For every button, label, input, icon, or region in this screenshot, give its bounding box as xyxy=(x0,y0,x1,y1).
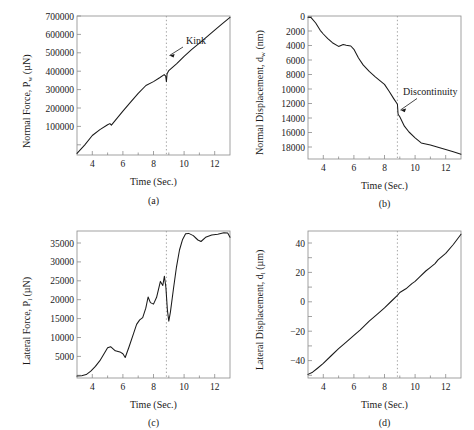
svg-text:4: 4 xyxy=(90,159,95,169)
svg-text:8: 8 xyxy=(151,382,156,392)
svg-text:0: 0 xyxy=(300,12,305,22)
svg-text:25000: 25000 xyxy=(50,276,74,286)
panel-b-xtick-labels: 4 6 8 10 12 xyxy=(321,163,451,173)
svg-text:20000: 20000 xyxy=(50,295,74,305)
svg-text:Normal Displacement, dw (nm): Normal Displacement, dw (nm) xyxy=(254,30,266,155)
panel-a-data-line xyxy=(77,17,230,153)
panel-b-yticks xyxy=(308,17,312,148)
svg-text:400000: 400000 xyxy=(46,67,75,77)
panel-d-caption: (d) xyxy=(379,417,391,429)
svg-text:Lateral Displacement, dl (µm): Lateral Displacement, dl (µm) xyxy=(254,250,266,370)
panel-a-xticks xyxy=(92,151,214,155)
panel-b-xticks xyxy=(323,155,445,159)
svg-text:100000: 100000 xyxy=(46,122,75,132)
svg-text:10000: 10000 xyxy=(281,85,305,95)
panel-a-xaxis-title: Time (Sec.) xyxy=(130,176,177,188)
svg-text:12: 12 xyxy=(210,159,220,169)
svg-text:Discontinuity: Discontinuity xyxy=(403,86,457,97)
svg-text:700000: 700000 xyxy=(46,12,75,22)
figure-root: Normal Force, Pw (µN) 700000 600000 5000… xyxy=(0,0,474,430)
svg-text:10: 10 xyxy=(179,159,189,169)
svg-text:20: 20 xyxy=(296,268,306,278)
panel-c-svg: Lateral Force, Pl (µN) 35000 30000 25000… xyxy=(0,215,237,430)
panel-c-yaxis-title: Lateral Force, Pl (µN) xyxy=(21,277,33,365)
panel-c-caption: (c) xyxy=(148,417,159,429)
svg-text:6: 6 xyxy=(352,163,357,173)
svg-text:4000: 4000 xyxy=(286,41,305,51)
svg-text:−20: −20 xyxy=(290,327,305,337)
svg-text:15000: 15000 xyxy=(50,314,74,324)
svg-text:18000: 18000 xyxy=(281,143,305,153)
svg-text:2000: 2000 xyxy=(286,27,305,37)
panel-d-xticks xyxy=(323,374,445,378)
panel-a: Normal Force, Pw (µN) 700000 600000 5000… xyxy=(0,0,237,215)
svg-text:8: 8 xyxy=(151,159,156,169)
svg-text:10: 10 xyxy=(410,163,420,173)
panel-d-data-line xyxy=(308,234,461,374)
panel-b-yaxis-title: Normal Displacement, dw (nm) xyxy=(254,30,266,155)
panel-d-xaxis-title: Time (Sec.) xyxy=(361,399,408,411)
panel-d-yticks xyxy=(308,243,312,375)
svg-text:0: 0 xyxy=(300,297,305,307)
svg-text:4: 4 xyxy=(90,382,95,392)
panel-d-xtick-labels: 4 6 8 10 12 xyxy=(321,382,451,392)
svg-text:Normal Force, Pw (µN): Normal Force, Pw (µN) xyxy=(21,55,33,148)
panel-b-xaxis-title: Time (Sec.) xyxy=(361,180,408,192)
svg-text:12: 12 xyxy=(441,163,451,173)
svg-text:Kink: Kink xyxy=(186,35,206,46)
svg-text:16000: 16000 xyxy=(281,128,305,138)
panel-c-xtick-labels: 4 6 8 10 12 xyxy=(90,382,220,392)
svg-text:12: 12 xyxy=(210,382,220,392)
svg-text:10: 10 xyxy=(179,382,189,392)
panel-a-ytick-labels: 700000 600000 500000 400000 300000 20000… xyxy=(46,12,75,132)
svg-text:4: 4 xyxy=(321,163,326,173)
panel-c-xaxis-title: Time (Sec.) xyxy=(130,399,177,411)
svg-text:6: 6 xyxy=(352,382,357,392)
panel-b-svg: Normal Displacement, dw (nm) 0 2000 4000… xyxy=(237,0,474,215)
svg-text:6000: 6000 xyxy=(286,56,305,66)
svg-text:30000: 30000 xyxy=(50,257,74,267)
panel-d-svg: Lateral Displacement, dl (µm) 40 20 0 −2… xyxy=(237,215,474,430)
panel-c-ytick-labels: 35000 30000 25000 20000 15000 10000 5000 xyxy=(50,239,74,362)
svg-text:300000: 300000 xyxy=(46,85,75,95)
panel-b-caption: (b) xyxy=(379,198,391,210)
panel-a-kink-annotation: Kink xyxy=(170,35,207,58)
panel-b-discontinuity-annotation: Discontinuity xyxy=(401,86,458,112)
panel-d: Lateral Displacement, dl (µm) 40 20 0 −2… xyxy=(237,215,474,430)
svg-text:8000: 8000 xyxy=(286,70,305,80)
svg-text:14000: 14000 xyxy=(281,114,305,124)
panel-c-yticks xyxy=(77,243,81,375)
svg-text:200000: 200000 xyxy=(46,104,75,114)
svg-text:35000: 35000 xyxy=(50,239,74,249)
svg-text:40: 40 xyxy=(296,239,306,249)
panel-a-yaxis-title: Normal Force, Pw (µN) xyxy=(21,55,33,148)
panel-a-svg: Normal Force, Pw (µN) 700000 600000 5000… xyxy=(0,0,237,215)
svg-text:4: 4 xyxy=(321,382,326,392)
panel-a-yticks xyxy=(77,16,81,145)
svg-text:6: 6 xyxy=(121,159,126,169)
svg-text:6: 6 xyxy=(121,382,126,392)
svg-text:Lateral Force, Pl (µN): Lateral Force, Pl (µN) xyxy=(21,277,33,365)
panel-d-ytick-labels: 40 20 0 −20 −40 xyxy=(290,239,305,367)
svg-text:5000: 5000 xyxy=(55,352,74,362)
panel-b-ytick-labels: 0 2000 4000 6000 8000 10000 12000 14000 … xyxy=(281,12,305,153)
panel-c: Lateral Force, Pl (µN) 35000 30000 25000… xyxy=(0,215,237,430)
svg-text:10000: 10000 xyxy=(50,333,74,343)
svg-text:12000: 12000 xyxy=(281,99,305,109)
panel-c-xticks xyxy=(92,374,214,378)
panel-a-caption: (a) xyxy=(148,195,159,207)
svg-text:10: 10 xyxy=(410,382,420,392)
panel-a-xtick-labels: 4 6 8 10 12 xyxy=(90,159,220,169)
svg-text:8: 8 xyxy=(382,382,387,392)
svg-text:−40: −40 xyxy=(290,356,305,366)
panel-c-data-line xyxy=(77,233,230,376)
svg-text:8: 8 xyxy=(382,163,387,173)
panel-b: Normal Displacement, dw (nm) 0 2000 4000… xyxy=(237,0,474,215)
panel-d-yaxis-title: Lateral Displacement, dl (µm) xyxy=(254,250,266,370)
svg-text:600000: 600000 xyxy=(46,30,75,40)
svg-text:12: 12 xyxy=(441,382,451,392)
svg-text:500000: 500000 xyxy=(46,48,75,58)
